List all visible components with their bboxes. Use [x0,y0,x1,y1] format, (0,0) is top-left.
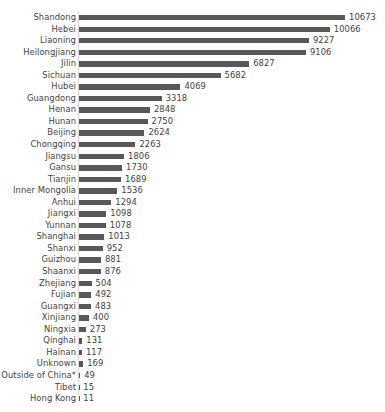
bar-category-label: Zhejiang [39,278,76,290]
bar-value-label: 1806 [128,151,150,163]
bar-row: Beijing2624 [0,127,385,139]
bar-row: Guizhou881 [0,254,385,266]
bar [79,119,148,124]
bar-track: 1730 [79,162,385,174]
bar [79,142,135,147]
bar [79,50,306,55]
bar-row: Inner Mongolia1536 [0,185,385,197]
bar-category-label: Heilongjiang [23,47,76,59]
bar-track: 5682 [79,70,385,82]
bar-value-label: 169 [87,358,103,370]
bar-value-label: 1294 [115,197,137,209]
bar [79,292,91,297]
bar-category-label: Guangxi [41,301,76,313]
bar-track: 9227 [79,35,385,47]
bar-row: Ningxia273 [0,324,385,336]
bar-track: 1806 [79,151,385,163]
bar [79,234,104,239]
bar-category-label: Xinjiang [42,312,76,324]
bar [79,269,101,274]
bar-track: 483 [79,301,385,313]
bar-row: Hebei10066 [0,24,385,36]
bar-track: 1294 [79,197,385,209]
bar-track: 3318 [79,93,385,105]
bar-row: Henan2848 [0,104,385,116]
bar-track: 10066 [79,24,385,36]
bar-value-label: 4069 [184,81,206,93]
bar-category-label: Qinghai [43,335,76,347]
bar-row-list: Shandong10673Hebei10066Liaoning9227Heilo… [0,12,385,405]
bar-category-label: Beijing [47,127,76,139]
bar-track: 273 [79,324,385,336]
bar-track: 492 [79,289,385,301]
bar-track: 400 [79,312,385,324]
bar-row: Xinjiang400 [0,312,385,324]
bar-category-label: Shanxi [47,243,76,255]
bar-row: Jiangxi1098 [0,208,385,220]
bar-value-label: 876 [105,266,121,278]
bar-track: 1536 [79,185,385,197]
bar-category-label: Hainan [46,347,76,359]
bar-row: Hubei4069 [0,81,385,93]
bar-category-label: Hubei [51,81,76,93]
bar-value-label: 2624 [148,127,170,139]
bar-value-label: 1536 [121,185,143,197]
bar-row: Shaanxi876 [0,266,385,278]
bar-category-label: Shaanxi [42,266,76,278]
bar [79,338,82,343]
bar-category-label: Sichuan [42,70,76,82]
bar-value-label: 5682 [225,70,247,82]
bar-track: 1013 [79,231,385,243]
bar-track: 876 [79,266,385,278]
bar-track: 2624 [79,127,385,139]
bar-track: 1078 [79,220,385,232]
bar-value-label: 881 [105,254,121,266]
bar-row: Shanghai1013 [0,231,385,243]
bar-row: Sichuan5682 [0,70,385,82]
bar-track: 6827 [79,58,385,70]
bar-value-label: 49 [84,370,95,382]
bar-category-label: Gansu [49,162,76,174]
bar-value-label: 117 [86,347,102,359]
bar-category-label: Tianjin [48,174,76,186]
bar-track: 504 [79,278,385,290]
bar-category-label: Tibet [55,382,76,394]
bar-track: 49 [79,370,385,382]
bar-category-label: Liaoning [40,35,76,47]
bar-value-label: 400 [93,312,109,324]
bar-category-label: Shandong [33,12,76,24]
bar-row: Outside of China*49 [0,370,385,382]
bar-value-label: 11 [83,393,94,405]
bar-value-label: 1078 [110,220,132,232]
bar-category-label: Hebei [52,24,77,36]
bar [79,73,221,78]
bar-category-label: Jilin [61,58,76,70]
bar-value-label: 952 [107,243,123,255]
bar-row: Hunan2750 [0,116,385,128]
bar-track: 2750 [79,116,385,128]
bar-value-label: 10066 [334,24,361,36]
bar [79,246,103,251]
bar-row: Tibet15 [0,382,385,394]
bar-track: 952 [79,243,385,255]
bar-value-label: 2750 [152,116,174,128]
bar [79,350,82,355]
bar-row: Yunnan1078 [0,220,385,232]
bar-row: Qinghai131 [0,335,385,347]
bar-category-label: Ningxia [44,324,76,336]
bar-row: Gansu1730 [0,162,385,174]
bar-category-label: Jiangxi [48,208,76,220]
bar-row: Chongqing2263 [0,139,385,151]
bar-track: 2263 [79,139,385,151]
bar-category-label: Outside of China* [1,370,76,382]
bar-category-label: Inner Mongolia [13,185,76,197]
bar [79,177,121,182]
bar-value-label: 273 [90,324,106,336]
bar-category-label: Henan [49,104,76,116]
bar-track: 1098 [79,208,385,220]
bar [79,96,162,101]
bar [79,38,309,43]
bar [79,27,330,32]
bar-row: Jiangsu1806 [0,151,385,163]
bar [79,154,124,159]
